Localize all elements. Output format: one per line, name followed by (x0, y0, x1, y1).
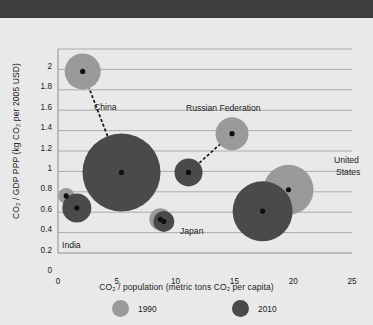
y-tick-label: 1.6 (22, 103, 52, 112)
y-tick-label: 0.6 (22, 205, 52, 214)
chart-page: 00.20.40.60.811.21.41.61.82 0510152025 C… (0, 18, 373, 325)
y-tick-label: 0 (22, 266, 52, 275)
x-axis-title: CO₂ / population (metric tons CO₂ per ca… (0, 282, 373, 292)
legend-item-1990[interactable]: 1990 (112, 300, 157, 317)
legend-swatch-2010 (232, 300, 249, 317)
bubbles-2010-group[interactable] (62, 133, 292, 241)
y-tick-label: 0.8 (22, 184, 52, 193)
y-tick-label: 1 (22, 164, 52, 173)
country-label-japan: Japan (180, 226, 203, 236)
legend-label-2010: 2010 (258, 304, 277, 314)
y-tick-label: 0.4 (22, 225, 52, 234)
chart-legend: 19902010 (0, 300, 373, 325)
country-label-united: United (334, 155, 359, 165)
country-label-china: China (94, 102, 116, 112)
top-header-bar (0, 0, 373, 18)
country-label-russian-federation: Russian Federation (186, 103, 261, 113)
y-axis-title: CO₂ / GDP PPP (kg CO₂ per 2005 USD) (11, 41, 21, 241)
legend-swatch-1990 (112, 300, 129, 317)
legend-label-1990: 1990 (138, 304, 157, 314)
legend-item-2010[interactable]: 2010 (232, 300, 277, 317)
country-label-india: India (62, 240, 81, 250)
y-tick-label: 1.4 (22, 123, 52, 132)
y-tick-label: 2 (22, 62, 52, 71)
country-label-states: States (336, 167, 360, 177)
y-tick-label: 1.2 (22, 144, 52, 153)
y-tick-label: 0.2 (22, 246, 52, 255)
y-tick-label: 1.8 (22, 82, 52, 91)
